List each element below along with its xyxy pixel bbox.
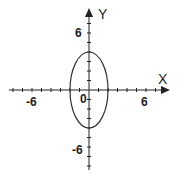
origin-label: 0 — [80, 93, 87, 105]
y-tick-label-neg6: -6 — [72, 144, 83, 156]
y-axis-arrow-icon — [85, 8, 93, 17]
y-tick-label-6: 6 — [75, 27, 82, 39]
x-tick-label-neg6: -6 — [26, 96, 37, 108]
y-axis-label: Y — [98, 7, 107, 21]
x-axis-label: X — [158, 72, 167, 86]
x-axis-arrow-icon — [161, 86, 170, 94]
x-tick-label-6: 6 — [141, 96, 148, 108]
coordinate-plane — [0, 0, 180, 174]
